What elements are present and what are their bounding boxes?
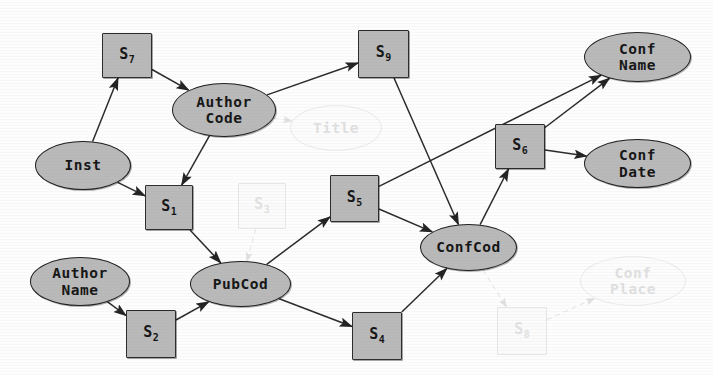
node-confcod[interactable]: ConfCod: [420, 224, 517, 271]
node-label: S4: [353, 326, 401, 345]
edge-s5-to-confname: [379, 75, 601, 186]
node-subscript: 6: [522, 145, 528, 156]
node-title[interactable]: Title: [290, 105, 382, 151]
node-s2[interactable]: S2: [126, 310, 176, 358]
node-label: ConfPlace: [581, 265, 685, 297]
edge-authorname-to-s2: [108, 302, 126, 316]
node-label: PubCod: [191, 276, 290, 292]
node-s5[interactable]: S5: [330, 175, 379, 222]
node-s8[interactable]: S8: [497, 307, 547, 355]
node-subscript: 4: [379, 334, 385, 345]
node-subscript: 2: [153, 332, 159, 343]
node-subscript: 7: [129, 54, 135, 65]
node-label: S9: [359, 44, 408, 63]
node-s4[interactable]: S4: [352, 312, 402, 360]
edge-s7-to-authorcode: [152, 70, 189, 91]
node-authorname[interactable]: AuthorName: [30, 257, 130, 306]
edge-s6-to-confname: [545, 78, 610, 127]
edge-s4-to-confcod: [402, 269, 447, 313]
node-s6[interactable]: S6: [495, 124, 545, 169]
node-label: ConfName: [585, 41, 690, 73]
node-label: Inst: [36, 157, 130, 173]
node-label: S1: [146, 198, 192, 217]
node-label: S5: [331, 189, 378, 208]
node-authorcode[interactable]: AuthorCode: [172, 83, 276, 137]
node-label: S6: [496, 137, 544, 156]
node-confname[interactable]: ConfName: [584, 32, 691, 82]
node-label: S8: [498, 321, 546, 340]
node-subscript: 3: [264, 204, 270, 215]
node-subscript: 1: [171, 206, 177, 217]
edge-s8-to-confplace: [547, 298, 595, 319]
node-s9[interactable]: S9: [358, 30, 409, 78]
node-s3[interactable]: S3: [238, 183, 286, 229]
edge-s5-to-confcod: [379, 209, 432, 232]
edge-authorcode-to-s9: [267, 63, 358, 95]
node-s7[interactable]: S7: [102, 33, 152, 78]
diagram-canvas: S7S9S6S1S5S2S4S3S8InstAuthorCodeAuthorNa…: [0, 0, 713, 375]
edge-confcod-to-s6: [480, 169, 508, 225]
edge-s3-to-pubcod: [247, 229, 256, 261]
node-s1[interactable]: S1: [145, 185, 193, 230]
node-subscript: 8: [524, 329, 530, 340]
node-label: AuthorCode: [173, 94, 275, 126]
edge-authorcode-to-title: [274, 118, 293, 121]
node-subscript: 5: [356, 197, 362, 208]
node-label: ConfDate: [585, 147, 690, 179]
edge-authorcode-to-s1: [182, 136, 210, 185]
node-label: S3: [239, 196, 285, 215]
node-label: ConfCod: [421, 239, 516, 255]
edge-inst-to-s1: [118, 182, 145, 195]
node-inst[interactable]: Inst: [35, 141, 131, 190]
node-label: AuthorName: [31, 265, 129, 297]
node-label: S2: [127, 324, 175, 343]
edge-s1-to-pubcod: [190, 230, 221, 263]
edge-s2-to-pubcod: [176, 302, 209, 320]
node-confdate[interactable]: ConfDate: [584, 139, 691, 188]
node-label: Title: [291, 120, 381, 136]
edge-confcod-to-s8: [483, 270, 507, 307]
node-pubcod[interactable]: PubCod: [190, 261, 291, 307]
edge-s6-to-confdate: [545, 150, 587, 156]
edge-pubcod-to-s4: [279, 299, 352, 327]
edge-inst-to-s7: [93, 78, 118, 142]
node-label: S7: [103, 46, 151, 65]
node-subscript: 9: [385, 52, 391, 63]
node-confplace[interactable]: ConfPlace: [580, 256, 686, 306]
